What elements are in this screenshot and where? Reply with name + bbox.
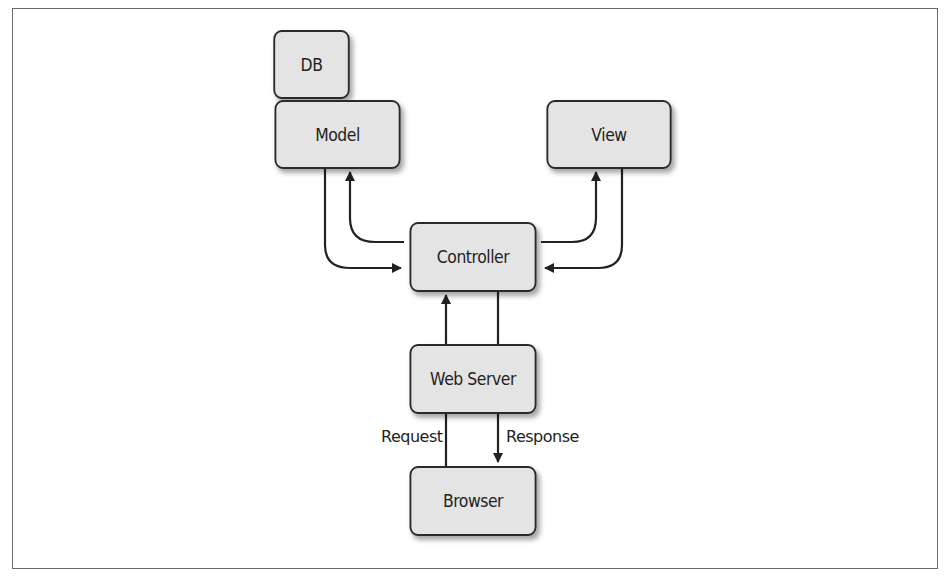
edge-label-response: Response [506,427,579,446]
arrow-view-to-controller [545,168,622,268]
node-model: Model [274,100,400,169]
node-view: View [546,100,671,169]
arrow-model-to-controller [325,168,401,268]
node-model-label: Model [315,125,360,145]
node-db: DB [273,30,349,99]
node-view-label: View [591,125,626,145]
edge-label-request: Request [381,427,443,446]
arrow-controller-to-view [541,172,596,242]
node-controller: Controller [410,222,537,292]
node-web-server-label: Web Server [430,369,516,389]
node-controller-label: Controller [437,247,509,267]
node-browser-label: Browser [443,491,503,511]
arrow-controller-to-model [350,172,404,242]
node-web-server: Web Server [410,344,537,414]
node-db-label: DB [301,55,323,75]
node-browser: Browser [410,466,537,536]
